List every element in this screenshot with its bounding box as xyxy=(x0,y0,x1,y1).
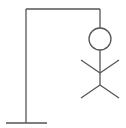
hangman-drawing xyxy=(0,0,126,128)
hangman-stage xyxy=(0,0,126,128)
figure-left-leg xyxy=(81,85,100,98)
figure-right-leg xyxy=(100,85,119,98)
figure-left-arm xyxy=(81,60,100,73)
figure-head xyxy=(89,28,111,50)
figure-right-arm xyxy=(100,60,119,73)
